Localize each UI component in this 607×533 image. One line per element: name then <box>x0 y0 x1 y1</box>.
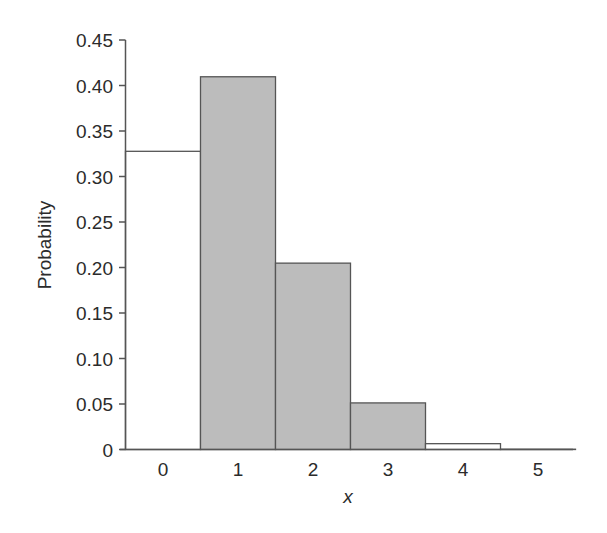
y-tick-label: 0.20 <box>76 258 113 279</box>
y-tick-label: 0 <box>102 440 113 461</box>
y-tick-label: 0.45 <box>76 30 113 51</box>
x-tick-label: 3 <box>383 459 394 480</box>
x-tick-label: 1 <box>233 459 244 480</box>
bar-x-2 <box>276 263 351 449</box>
bar-x-0 <box>126 151 201 449</box>
y-tick-label: 0.30 <box>76 167 113 188</box>
x-tick-label: 5 <box>533 459 544 480</box>
bar-x-1 <box>201 77 276 450</box>
x-ticks-group: 012345 <box>158 459 544 480</box>
y-tick-label: 0.10 <box>76 349 113 370</box>
y-tick-label: 0.05 <box>76 394 113 415</box>
bar-x-4 <box>426 444 501 450</box>
bars-group <box>126 77 576 450</box>
y-tick-label: 0.15 <box>76 303 113 324</box>
bar-x-3 <box>351 403 426 450</box>
y-tick-label: 0.25 <box>76 212 113 233</box>
x-tick-label: 4 <box>458 459 469 480</box>
y-ticks-group: 00.050.100.150.200.250.300.350.400.45 <box>76 30 125 461</box>
y-axis-title: Probability <box>34 200 55 289</box>
y-tick-label: 0.35 <box>76 121 113 142</box>
x-axis-title: x <box>342 486 354 507</box>
x-tick-label: 2 <box>308 459 319 480</box>
y-tick-label: 0.40 <box>76 76 113 97</box>
x-tick-label: 0 <box>158 459 169 480</box>
probability-bar-chart: 00.050.100.150.200.250.300.350.400.45 01… <box>0 0 607 533</box>
